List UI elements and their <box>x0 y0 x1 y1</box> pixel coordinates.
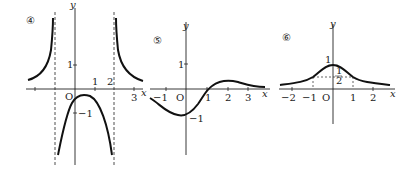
graph-6: ⑥ y x O −2 −1 1 2 1 1 2 <box>279 18 396 124</box>
x-tick-2: 2 <box>107 76 113 87</box>
y-axis-label: y <box>182 20 189 31</box>
function-graphs: ④ y x O 1 2 3 1 −1 ⑤ y x O −1 1 2 3 1 −1 <box>0 0 416 172</box>
y-tick-neg1: −1 <box>189 113 204 124</box>
half-denominator: 2 <box>336 75 342 86</box>
x-tick-1: 1 <box>205 92 211 103</box>
y-axis-label: y <box>69 0 76 10</box>
y-tick-neg1: −1 <box>78 108 93 119</box>
x-tick-neg1: −1 <box>302 92 317 103</box>
graph-label: ⑤ <box>153 35 162 46</box>
graph-5: ⑤ y x O −1 1 2 3 1 −1 <box>150 20 270 155</box>
curve-middle-branch <box>58 95 112 155</box>
x-axis-label: x <box>262 88 268 99</box>
x-tick-2: 2 <box>225 92 231 103</box>
x-axis-label: x <box>141 87 147 98</box>
x-axis-label: x <box>390 88 396 99</box>
y-tick-1: 1 <box>178 59 184 70</box>
curve <box>280 65 390 85</box>
origin-label: O <box>65 91 73 102</box>
y-tick-1: 1 <box>325 54 331 65</box>
y-tick-1: 1 <box>67 59 73 70</box>
x-tick-1: 1 <box>350 92 356 103</box>
graph-label: ④ <box>26 15 35 26</box>
x-tick-neg1: −1 <box>153 92 168 103</box>
graph-4: ④ y x O 1 2 3 1 −1 <box>26 0 147 165</box>
origin-label: O <box>322 92 330 103</box>
curve-right-branch <box>116 18 143 81</box>
curve-left-branch <box>28 18 53 80</box>
x-tick-3: 3 <box>131 92 137 103</box>
x-tick-1: 1 <box>92 76 98 87</box>
graph-label: ⑥ <box>282 32 291 43</box>
x-tick-3: 3 <box>245 92 251 103</box>
y-axis-label: y <box>329 18 336 29</box>
x-tick-neg2: −2 <box>281 92 296 103</box>
origin-label: O <box>176 92 184 103</box>
x-tick-2: 2 <box>370 92 376 103</box>
